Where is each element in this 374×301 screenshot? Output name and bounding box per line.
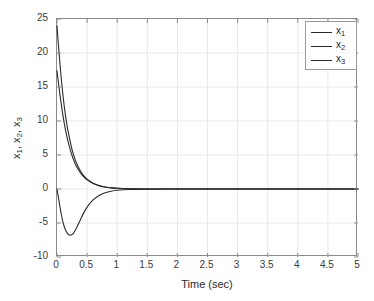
y-axis-label-x3: x3: [10, 117, 22, 127]
y-tick-label: 20: [14, 47, 48, 57]
legend-item-x2[interactable]: x2: [309, 39, 353, 53]
x-tick-label: 1: [101, 260, 131, 270]
legend-box[interactable]: x1x2x3: [305, 21, 357, 70]
x-tick-label: 2.5: [192, 260, 222, 270]
y-axis-label: x1, x2, x3: [10, 83, 24, 193]
x-tick-label: 4: [282, 260, 312, 270]
legend-item-x3[interactable]: x3: [309, 53, 353, 67]
y-tick-label: 25: [14, 13, 48, 23]
x-tick-label: 3: [222, 260, 252, 270]
legend-line-swatch: [311, 32, 332, 33]
legend-line-swatch: [311, 46, 332, 47]
chart-figure: -10-50510152025 00.511.522.533.544.55 Ti…: [0, 0, 374, 301]
legend-line-swatch: [311, 60, 332, 61]
legend-item-label: x3: [336, 54, 345, 67]
y-axis-label-x2: x2: [10, 133, 22, 143]
x-tick-label: 0: [41, 260, 71, 270]
y-axis-label-x1: x1: [10, 149, 22, 159]
x-tick-label: 1.5: [131, 260, 161, 270]
x-axis-label: Time (sec): [137, 278, 277, 290]
x-tick-label: 2: [161, 260, 191, 270]
x-tick-label: 4.5: [312, 260, 342, 270]
y-tick-label: -5: [14, 217, 48, 227]
x-tick-label: 3.5: [252, 260, 282, 270]
x-tick-label: 0.5: [71, 260, 101, 270]
legend-item-label: x1: [336, 26, 345, 39]
legend-item-x1[interactable]: x1: [309, 25, 353, 39]
legend-item-label: x2: [336, 40, 345, 53]
x-tick-label: 5: [342, 260, 372, 270]
